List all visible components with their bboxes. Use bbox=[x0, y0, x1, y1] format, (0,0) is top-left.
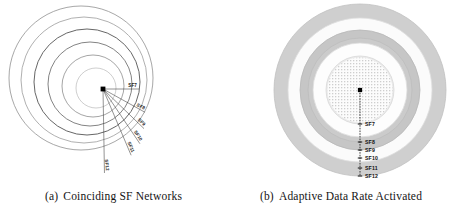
caption-panel-b: (b)Adaptive Data Rate Activated bbox=[227, 190, 455, 202]
plot-area-b: SF7SF8SF9SF10SF11SF12 bbox=[227, 0, 455, 182]
eccentric-circle-group bbox=[9, 6, 153, 150]
sf-label-sf7: SF7 bbox=[128, 83, 137, 88]
sf-label-sf7: SF7 bbox=[365, 121, 375, 127]
caption-tag-a: (a) bbox=[45, 190, 58, 202]
sf-label-sf11: SF11 bbox=[365, 165, 378, 171]
gateway-node-marker bbox=[101, 87, 106, 92]
sf-label-sf9: SF9 bbox=[365, 147, 375, 153]
panel-adaptive-data-rate-activated: SF7SF8SF9SF10SF11SF12 (b)Adaptive Data R… bbox=[227, 0, 455, 208]
diagram-coinciding-sf-networks: SF7SF8SF9SF10SF11SF12 bbox=[0, 0, 227, 182]
sf-label-sf12: SF12 bbox=[365, 173, 378, 179]
sf-label-sf9: SF9 bbox=[137, 117, 147, 127]
diagram-adaptive-data-rate-activated: SF7SF8SF9SF10SF11SF12 bbox=[227, 0, 455, 182]
caption-tag-b: (b) bbox=[260, 190, 274, 202]
caption-text-a: Coinciding SF Networks bbox=[63, 190, 182, 202]
figure-container: SF7SF8SF9SF10SF11SF12 (a)Coinciding SF N… bbox=[0, 0, 455, 208]
sf-range-circle-0 bbox=[76, 68, 116, 108]
sf-label-sf8: SF8 bbox=[365, 139, 375, 145]
sf-range-circle-4 bbox=[21, 17, 147, 143]
sf-label-sf10: SF10 bbox=[365, 155, 378, 161]
caption-panel-a: (a)Coinciding SF Networks bbox=[0, 190, 227, 202]
plot-area-a: SF7SF8SF9SF10SF11SF12 bbox=[0, 0, 227, 182]
gateway-node-marker bbox=[358, 88, 362, 92]
sf-label-sf8: SF8 bbox=[136, 102, 146, 111]
radial-line-sf10 bbox=[103, 89, 140, 144]
caption-text-b: Adaptive Data Rate Activated bbox=[279, 190, 422, 202]
sf-label-sf12: SF12 bbox=[104, 159, 110, 171]
panel-coinciding-sf-networks: SF7SF8SF9SF10SF11SF12 (a)Coinciding SF N… bbox=[0, 0, 227, 208]
radial-line-sf9 bbox=[103, 89, 144, 129]
